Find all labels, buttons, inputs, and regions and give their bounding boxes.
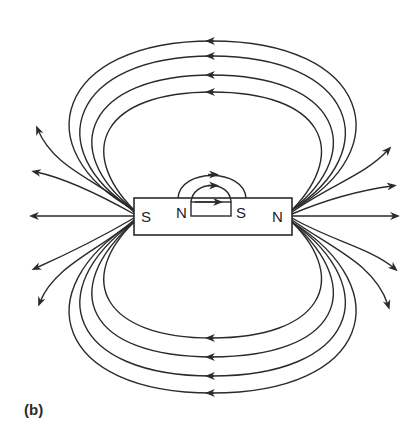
- outer-left-pole-label: S: [141, 208, 151, 225]
- top-loop-3: [92, 75, 333, 210]
- top-loop-4: [104, 92, 322, 210]
- figure-caption: (b): [24, 401, 43, 418]
- top-loops: [69, 41, 356, 210]
- top-loop-arrows: [210, 41, 214, 92]
- inner-magnet: [191, 202, 231, 216]
- top-loop-2: [80, 56, 345, 210]
- inner-outer-arc: [178, 176, 246, 199]
- bottom-loop-2: [80, 222, 345, 376]
- bottom-loop-arrows: [210, 338, 214, 393]
- outer-right-pole-label: N: [272, 208, 283, 225]
- inner-left-pole-label: N: [176, 204, 187, 221]
- bar-magnet-field-diagram: S N N S: [0, 0, 415, 444]
- bottom-loops: [69, 222, 356, 393]
- right-open-lines: [292, 150, 395, 305]
- inner-right-pole-label: S: [236, 204, 246, 221]
- bottom-loop-4: [104, 222, 322, 338]
- bottom-loop-3: [92, 222, 333, 357]
